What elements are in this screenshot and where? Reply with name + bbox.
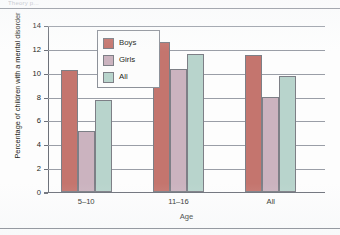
- bottom-divider-rule: [0, 228, 340, 229]
- x-tick-label-11-16: 11–16: [168, 197, 189, 206]
- y-tick-label-12: 12: [33, 46, 41, 54]
- legend-label-boys: Boys: [119, 39, 136, 47]
- y-axis-line: [48, 26, 49, 193]
- y-tick-12: [44, 50, 48, 51]
- page-header-sliver: Theory p...: [8, 0, 332, 7]
- y-tick-10: [44, 74, 48, 75]
- legend-item-boys: Boys: [103, 35, 159, 51]
- y-tick-14: [44, 26, 48, 27]
- y-tick-label-0: 0: [37, 189, 41, 197]
- y-axis-title: Percentage of children with a mental dis…: [13, 6, 22, 166]
- plot-area: 02468101214: [48, 26, 325, 193]
- legend-swatch-boys: [103, 38, 114, 49]
- bar-boys-all: [245, 55, 262, 192]
- y-tick-0: [44, 193, 48, 194]
- legend-swatch-all: [103, 72, 114, 83]
- y-tick-8: [44, 98, 48, 99]
- page-background: Theory p... Percentage of children with …: [0, 0, 340, 235]
- y-tick-label-8: 8: [37, 94, 41, 102]
- y-tick-label-10: 10: [33, 70, 41, 78]
- y-tick-label-6: 6: [37, 118, 41, 126]
- x-axis-line: [44, 192, 325, 193]
- bar-girls-11-16: [170, 69, 187, 192]
- y-tick-4: [44, 145, 48, 146]
- gridline-12: [48, 50, 325, 51]
- bar-all-5-10: [95, 100, 112, 192]
- legend-swatch-girls: [103, 55, 114, 66]
- legend-item-girls: Girls: [103, 52, 159, 68]
- bar-boys-5-10: [61, 70, 78, 192]
- x-axis-title: Age: [48, 212, 325, 221]
- legend-item-all: All: [103, 69, 159, 85]
- legend-label-all: All: [119, 73, 128, 81]
- bar-girls-5-10: [78, 131, 95, 192]
- bar-chart-figure: Percentage of children with a mental dis…: [0, 9, 340, 227]
- legend-label-girls: Girls: [119, 56, 135, 64]
- y-tick-label-2: 2: [37, 165, 41, 173]
- y-tick-2: [44, 169, 48, 170]
- x-tick-label-all: All: [267, 197, 275, 206]
- bar-all-11-16: [187, 54, 204, 192]
- x-tick-label-5-10: 5–10: [78, 197, 95, 206]
- bar-girls-all: [262, 97, 279, 192]
- chart-legend: Boys Girls All: [97, 30, 160, 88]
- y-tick-label-4: 4: [37, 141, 41, 149]
- y-tick-6: [44, 121, 48, 122]
- bar-all-all: [279, 76, 296, 192]
- y-tick-label-14: 14: [33, 22, 41, 30]
- gridline-14: [48, 26, 325, 27]
